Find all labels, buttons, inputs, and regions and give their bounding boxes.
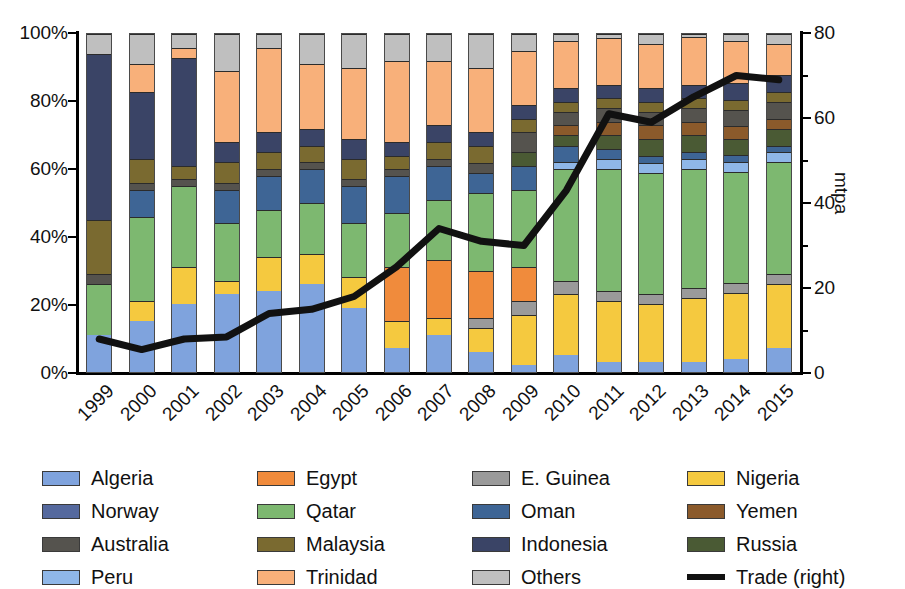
y-tick-right — [802, 117, 811, 119]
legend-item[interactable]: Indonesia — [472, 532, 687, 556]
y-tick-label-right: 60 — [814, 108, 854, 127]
legend-item-label: Nigeria — [736, 468, 799, 488]
legend-item-label: Algeria — [91, 468, 153, 488]
legend-item-label: E. Guinea — [521, 468, 610, 488]
algeria-swatch — [42, 471, 80, 486]
legend-item[interactable]: Algeria — [42, 466, 257, 490]
legend-item[interactable]: E. Guinea — [472, 466, 687, 490]
trinidad-swatch — [257, 570, 295, 585]
legend: AlgeriaEgyptE. GuineaNigeriaNorwayQatarO… — [42, 466, 872, 589]
legend-item[interactable]: Malaysia — [257, 532, 472, 556]
y-tick-label-left: 60% — [0, 159, 68, 178]
y-axis-right-title: mtpa — [830, 172, 852, 214]
legend-item[interactable]: Yemen — [687, 499, 902, 523]
legend-item[interactable]: Others — [472, 565, 687, 589]
y-tick-right-minor — [802, 75, 808, 77]
legend-item-label: Egypt — [306, 468, 357, 488]
legend-item-label: Russia — [736, 534, 797, 554]
trade-line-path — [99, 76, 779, 350]
trade-line-swatch — [687, 574, 725, 580]
y-tick-label-left: 80% — [0, 91, 68, 110]
norway-swatch — [42, 504, 80, 519]
legend-item[interactable]: Australia — [42, 532, 257, 556]
y-tick-label-left: 0% — [0, 363, 68, 382]
indonesia-swatch — [472, 537, 510, 552]
trade-line-series — [78, 33, 800, 373]
legend-item[interactable]: Nigeria — [687, 466, 902, 490]
y-tick-label-right: 80 — [814, 23, 854, 42]
qatar-swatch — [257, 504, 295, 519]
nigeria-swatch — [687, 471, 725, 486]
egypt-swatch — [257, 471, 295, 486]
legend-item[interactable]: Trade (right) — [687, 565, 902, 589]
y-tick-label-left: 20% — [0, 295, 68, 314]
y-tick-label-left: 40% — [0, 227, 68, 246]
y-tick-right — [802, 287, 811, 289]
legend-item-label: Malaysia — [306, 534, 385, 554]
eguinea-swatch — [472, 471, 510, 486]
legend-item-label: Qatar — [306, 501, 356, 521]
legend-item-label: Trinidad — [306, 567, 378, 587]
others-swatch — [472, 570, 510, 585]
y-tick-left — [68, 304, 77, 306]
yemen-swatch — [687, 504, 725, 519]
y-tick-right-minor — [802, 245, 808, 247]
y-tick-left — [68, 236, 77, 238]
oman-swatch — [472, 504, 510, 519]
legend-item-label: Trade (right) — [736, 567, 845, 587]
legend-item[interactable]: Peru — [42, 565, 257, 589]
legend-item-label: Indonesia — [521, 534, 608, 554]
legend-item[interactable]: Trinidad — [257, 565, 472, 589]
y-tick-left — [68, 32, 77, 34]
legend-item[interactable]: Qatar — [257, 499, 472, 523]
legend-item-label: Norway — [91, 501, 159, 521]
russia-swatch — [687, 537, 725, 552]
y-tick-right-minor — [802, 330, 808, 332]
legend-item-label: Peru — [91, 567, 133, 587]
y-tick-label-right: 20 — [814, 278, 854, 297]
y-tick-left — [68, 100, 77, 102]
y-tick-left — [68, 168, 77, 170]
australia-swatch — [42, 537, 80, 552]
peru-swatch — [42, 570, 80, 585]
y-tick-right-minor — [802, 160, 808, 162]
legend-item[interactable]: Russia — [687, 532, 902, 556]
legend-item-label: Oman — [521, 501, 575, 521]
legend-item[interactable]: Egypt — [257, 466, 472, 490]
y-tick-label-right: 0 — [814, 363, 854, 382]
legend-item-label: Others — [521, 567, 581, 587]
y-tick-left — [68, 372, 77, 374]
y-tick-right — [802, 202, 811, 204]
y-tick-label-left: 100% — [0, 23, 68, 42]
legend-item-label: Yemen — [736, 501, 798, 521]
legend-item[interactable]: Oman — [472, 499, 687, 523]
y-tick-right — [802, 32, 811, 34]
y-tick-right — [802, 372, 811, 374]
malaysia-swatch — [257, 537, 295, 552]
legend-item-label: Australia — [91, 534, 169, 554]
legend-item[interactable]: Norway — [42, 499, 257, 523]
